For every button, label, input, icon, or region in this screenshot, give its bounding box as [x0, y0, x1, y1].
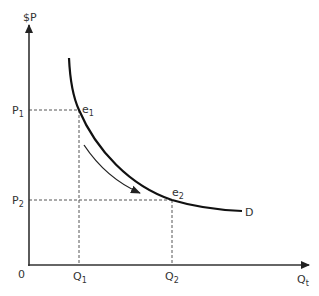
e1-label: e1	[82, 103, 94, 118]
y-axis-label: $P	[23, 11, 37, 24]
origin-label: 0	[18, 268, 25, 281]
q1-label: Q1	[73, 270, 87, 285]
e2-label: e2	[172, 186, 184, 201]
demand-curve	[69, 58, 242, 211]
movement-arrow	[84, 145, 140, 193]
q2-label: Q2	[165, 270, 179, 285]
p1-label: P1	[12, 104, 24, 119]
x-axis-label: Qt	[297, 273, 309, 288]
demand-curve-label: D	[245, 206, 253, 219]
p2-label: P2	[12, 194, 24, 209]
demand-diagram: $P P1 P2 0 Q1 Q2 Qt e1 e2 D	[0, 0, 319, 296]
